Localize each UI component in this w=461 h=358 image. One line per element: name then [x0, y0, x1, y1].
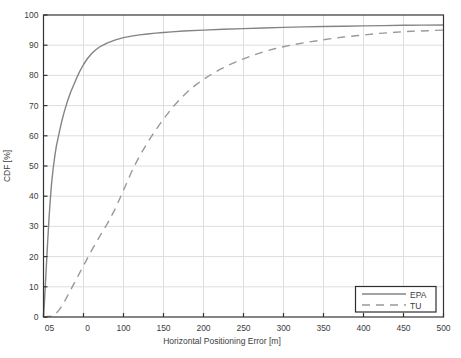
x-tick-label-50: 0	[85, 323, 90, 333]
y-tick-label-60: 60	[29, 131, 39, 141]
y-tick-label-10: 10	[29, 282, 39, 292]
x-tick-label-200: 200	[196, 323, 210, 333]
x-tick-label-500: 500	[436, 323, 450, 333]
y-tick-label-100: 100	[24, 10, 38, 20]
y-tick-label-50: 50	[29, 161, 39, 171]
y-tick-label-20: 20	[29, 252, 39, 262]
plot-area: 0501001502002503003504004505000102030405…	[0, 0, 461, 358]
y-tick-label-80: 80	[29, 70, 39, 80]
x-tick-label-150: 150	[156, 323, 170, 333]
y-axis-label: CDF [%]	[2, 91, 12, 241]
x-axis-label: Horizontal Positioning Error [m]	[0, 336, 444, 346]
y-tick-label-40: 40	[29, 191, 39, 201]
x-tick-label-0: 05	[45, 323, 55, 333]
x-tick-label-350: 350	[316, 323, 330, 333]
x-tick-label-400: 400	[356, 323, 370, 333]
cdf-figure: 0501001502002503003504004505000102030405…	[0, 0, 461, 358]
x-tick-label-300: 300	[276, 323, 290, 333]
legend-label-epa: EPA	[410, 290, 427, 300]
y-tick-label-30: 30	[29, 221, 39, 231]
legend-label-tu: TU	[410, 301, 421, 311]
x-tick-label-250: 250	[236, 323, 250, 333]
x-tick-label-450: 450	[396, 323, 410, 333]
y-tick-label-0: 0	[34, 312, 39, 322]
y-tick-label-70: 70	[29, 101, 39, 111]
y-tick-label-90: 90	[29, 40, 39, 50]
x-tick-label-100: 100	[116, 323, 130, 333]
